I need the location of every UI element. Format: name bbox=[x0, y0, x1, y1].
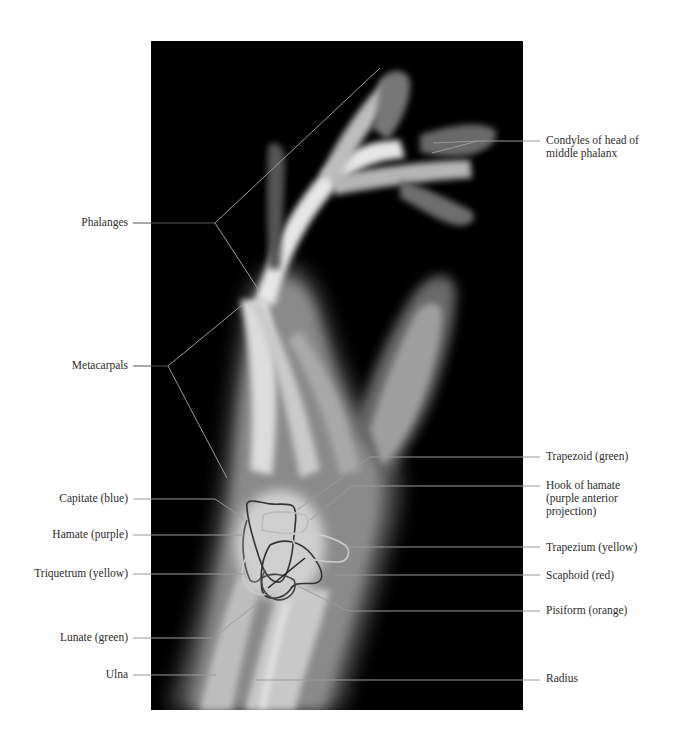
label-radius: Radius bbox=[546, 672, 578, 685]
label-capitate: Capitate (blue) bbox=[59, 492, 128, 505]
label-trapezium: Trapezium (yellow) bbox=[546, 541, 637, 554]
label-scaphoid: Scaphoid (red) bbox=[546, 569, 614, 582]
label-trapezoid: Trapezoid (green) bbox=[546, 450, 628, 463]
label-lunate: Lunate (green) bbox=[60, 631, 128, 644]
label-hamate: Hamate (purple) bbox=[52, 528, 128, 541]
label-pisiform: Pisiform (orange) bbox=[546, 604, 627, 617]
label-triquetrum: Triquetrum (yellow) bbox=[34, 567, 128, 580]
label-phalanges: Phalanges bbox=[81, 216, 128, 229]
label-ulna: Ulna bbox=[106, 668, 128, 681]
label-condyles-of-head-of-middle-phalanx: Condyles of head of middle phalanx bbox=[546, 134, 639, 160]
label-hook-of-hamate: Hook of hamate (purple anterior projecti… bbox=[546, 479, 620, 518]
label-metacarpals: Metacarpals bbox=[72, 359, 128, 372]
